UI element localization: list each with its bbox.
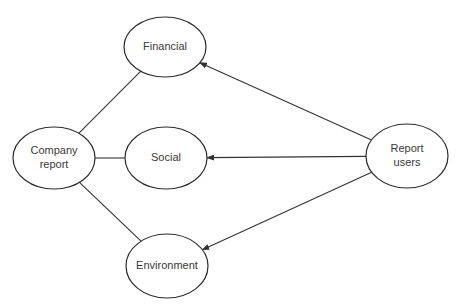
node-label: Report xyxy=(390,142,423,154)
diagram-svg: CompanyreportFinancialSocialEnvironmentR… xyxy=(0,0,463,308)
edges-layer xyxy=(79,63,372,250)
node-financial: Financial xyxy=(124,17,206,77)
node-users: Reportusers xyxy=(366,124,448,188)
node-label: users xyxy=(394,156,421,168)
node-social: Social xyxy=(125,127,207,189)
arrow-users-to-environment xyxy=(202,172,371,250)
node-label: report xyxy=(40,158,69,170)
node-label: Environment xyxy=(136,259,198,271)
arrow-users-to-social xyxy=(207,156,366,157)
diagram-canvas: CompanyreportFinancialSocialEnvironmentR… xyxy=(0,0,463,308)
node-label: Company xyxy=(30,144,78,156)
arrow-users-to-financial xyxy=(200,63,372,140)
connector-company-to-environment xyxy=(79,182,141,241)
connector-company-to-financial xyxy=(79,71,141,133)
node-company: Companyreport xyxy=(13,127,95,189)
node-environment: Environment xyxy=(126,234,208,298)
node-label: Social xyxy=(151,151,181,163)
node-label: Financial xyxy=(143,40,187,52)
